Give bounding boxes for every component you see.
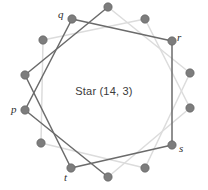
star-edge: [71, 145, 172, 168]
star-vertex: [141, 164, 149, 172]
star-edge: [25, 75, 71, 168]
label-t: t: [64, 172, 67, 183]
star-edge: [43, 19, 145, 40]
star-vertex: [104, 3, 112, 11]
star-vertex: [168, 37, 176, 45]
star-edge: [145, 19, 190, 108]
label-s: s: [179, 143, 183, 154]
star-edge: [41, 40, 43, 143]
star-edge: [25, 19, 72, 110]
label-p: p: [11, 104, 17, 115]
star-polygon-canvas: [0, 0, 208, 190]
star-edge: [72, 19, 172, 41]
star-vertex: [186, 104, 194, 112]
star-vertex: [186, 69, 194, 77]
star-vertex: [168, 141, 176, 149]
star-vertex: [21, 106, 29, 114]
star-edge: [25, 7, 108, 75]
edge-group-dark: [25, 7, 172, 177]
star-vertex: [141, 15, 149, 23]
star-vertex: [37, 139, 45, 147]
star-vertex: [39, 36, 47, 44]
star-vertex: [67, 164, 75, 172]
label-r: r: [177, 32, 181, 43]
star-vertex: [104, 173, 112, 181]
label-q: q: [58, 9, 64, 20]
star-vertex: [68, 15, 76, 23]
star-polygon-figure: Star (14, 3) qrpst: [0, 0, 208, 190]
star-vertex: [21, 71, 29, 79]
vertex-group: [21, 3, 194, 181]
